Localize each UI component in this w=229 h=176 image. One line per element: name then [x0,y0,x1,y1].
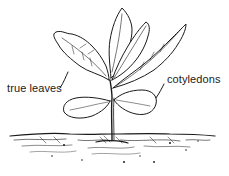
label-true-leaves: true leaves [7,83,62,94]
leader-line-cotyledons [156,84,164,98]
true-leaf-left [54,31,109,80]
seedling-diagram: true leaves cotyledons [0,0,229,176]
label-cotyledons: cotyledons [167,74,221,85]
cotyledon-right [114,90,156,115]
stem [110,80,112,140]
cotyledon-left [64,97,111,118]
